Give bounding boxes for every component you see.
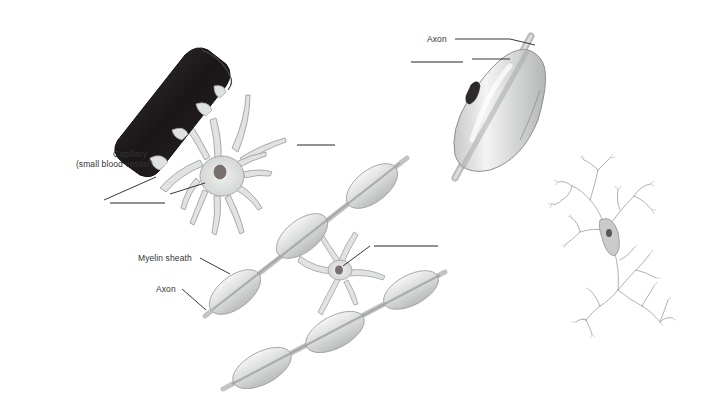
label-capillary-line1: Capillary [40,149,153,159]
label-myelin-sheath: Myelin sheath [138,253,192,263]
schwann-cell-figure [454,36,546,178]
diagram-canvas [0,0,705,415]
label-axon-bottom: Axon [156,284,176,294]
label-axon-top: Axon [427,34,447,44]
myelin-segment [299,303,371,361]
astrocyte-nucleus [214,165,226,179]
microglia-body [599,219,619,257]
label-capillary: Capillary (small blood vessel) [40,149,153,169]
oligodendrocyte-nucleus [335,266,343,275]
astrocyte-figure [115,48,286,235]
label-capillary-line2: (small blood vessel) [40,159,153,169]
microglia-nucleus [606,229,612,237]
neuroglia-diagram: Capillary (small blood vessel) Axon Myel… [0,0,705,415]
